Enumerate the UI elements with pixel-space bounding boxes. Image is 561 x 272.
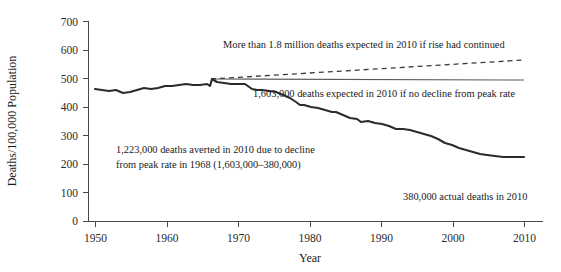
y-tick-label-500: 500 [61, 73, 79, 85]
series-continued-rise-line [211, 60, 524, 79]
annotation-no-decline: 1,603,000 deaths expected in 2010 if no … [253, 88, 515, 99]
x-tick-label-1960: 1960 [156, 232, 179, 244]
x-tick-label-2000: 2000 [442, 232, 465, 244]
y-tick-label-700: 700 [61, 16, 79, 28]
x-axis-title: Year [299, 251, 321, 265]
chart-figure: 700 600 500 400 300 200 100 0 1950 1960 … [0, 0, 561, 272]
x-tick-label-1990: 1990 [370, 232, 393, 244]
x-tick-label-2010: 2010 [513, 232, 536, 244]
annotation-deaths-averted-line1: 1,223,000 deaths averted in 2010 due to … [116, 144, 315, 155]
y-tick-label-300: 300 [61, 130, 79, 142]
y-tick-label-200: 200 [61, 158, 79, 170]
x-axis: 1950 1960 1970 1980 1990 2000 2010 [84, 222, 543, 245]
x-tick-label-1970: 1970 [227, 232, 250, 244]
y-tick-label-600: 600 [61, 44, 79, 56]
annotation-continued-rise: More than 1.8 million deaths expected in… [223, 39, 505, 50]
x-tick-label-1950: 1950 [84, 232, 107, 244]
series-no-decline-line [211, 79, 524, 80]
annotation-actual-deaths: 380,000 actual deaths in 2010 [403, 191, 527, 202]
x-tick-label-1980: 1980 [299, 232, 322, 244]
y-tick-label-0: 0 [72, 215, 78, 227]
y-tick-label-400: 400 [61, 101, 79, 113]
y-tick-label-100: 100 [61, 187, 79, 199]
annotation-deaths-averted-line2: from peak rate in 1968 (1,603,000–380,00… [116, 159, 301, 171]
y-axis-title: Deaths/100,000 Population [5, 56, 19, 187]
y-axis: 700 600 500 400 300 200 100 0 [61, 16, 89, 228]
chart-canvas: 700 600 500 400 300 200 100 0 1950 1960 … [0, 0, 561, 272]
